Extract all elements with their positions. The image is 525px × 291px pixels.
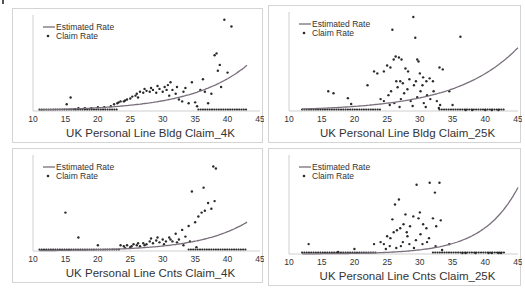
claim-rate-point [233,248,235,250]
claim-rate-point [349,108,351,110]
claim-rate-point [387,94,389,96]
claim-rate-point [351,108,353,110]
claim-rate-point [207,102,209,104]
claim-rate-point [231,248,233,250]
claim-rate-point [497,109,499,111]
legend-dot-swatch [47,35,50,38]
claim-rate-point [178,238,180,240]
claim-rate-point [489,108,491,110]
legend: Estimated RateClaim Rate [299,162,370,181]
claim-rate-point [220,108,222,110]
claim-rate-point [195,246,197,248]
claim-rate-point [188,248,190,250]
claim-rate-point [374,108,376,110]
claim-rate-point [443,108,445,110]
claim-rate-point [220,86,222,88]
claim-rate-point [158,241,160,243]
claim-rate-point [240,248,242,250]
claim-rate-point [400,58,402,60]
claim-rate-point [439,251,441,253]
claim-rate-point [142,92,144,94]
claim-rate-point [373,243,375,245]
claim-rate-point [396,86,398,88]
claim-rate-point [200,211,202,213]
claim-rate-point [187,225,189,227]
claim-rate-point [156,85,158,87]
claim-rate-point [208,248,210,250]
claim-rate-point [226,248,228,250]
claim-rate-point [209,108,211,110]
x-tick-label: 20 [93,254,103,264]
claim-rate-point [203,248,205,250]
x-tick-label: 40 [481,114,491,124]
claim-rate-point [95,108,97,110]
claim-rate-point [143,244,145,246]
x-tick-label: 35 [448,114,458,124]
claim-rate-point [230,25,232,27]
x-tick-label: 10 [28,254,38,264]
claim-rate-point [196,105,198,107]
claim-rate-point [367,108,369,110]
chart-canvas: 1015202530354045UK Personal Line Bldg Cl… [269,6,522,144]
claim-rate-point [497,252,499,254]
claim-rate-point [335,108,337,110]
claim-rate-point [213,54,215,56]
claim-rate-point [77,236,79,238]
claim-rate-point [452,108,454,110]
claim-rate-point [461,252,463,254]
claim-rate-point [432,251,434,253]
claim-rate-point [176,241,178,243]
x-tick-label: 20 [350,257,360,267]
claim-rate-point [406,231,408,233]
claim-rate-point [155,239,157,241]
claim-rate-point [468,251,470,253]
claim-rate-point [215,167,217,169]
claim-rate-point [436,251,438,253]
claim-rate-point [459,108,461,110]
claim-rate-point [445,108,447,110]
claim-rate-point [412,16,414,18]
claim-rate-point [155,92,157,94]
claim-rate-point [93,108,95,110]
claim-rate-point [64,211,66,213]
legend-label-claim-rate: Claim Rate [56,31,98,41]
x-tick-label: 40 [481,257,491,267]
chart-panel-cnts-25k: 1015202530354045UK Personal Line Cnts Cl… [268,148,521,286]
x-tick-label: 45 [255,254,264,264]
claim-rate-point [342,108,344,110]
claim-rate-point [240,108,242,110]
claim-rate-point [419,211,421,213]
claim-rate-point [482,251,484,253]
claim-rate-point [389,237,391,239]
claim-rate-point [201,248,203,250]
claim-rate-point [450,251,452,253]
claim-rate-point [174,233,176,235]
claim-rate-point [446,251,448,253]
claim-rate-point [222,108,224,110]
claim-rate-point [113,108,115,110]
claim-rate-point [423,102,425,104]
claim-rate-point [413,84,415,86]
claim-rate-point [491,109,493,111]
claim-rate-point [451,104,453,106]
chart-title: UK Personal Line Bldg Claim_25K [320,127,495,139]
claim-rate-point [383,70,385,72]
claim-rate-point [150,237,152,239]
claim-rate-point [353,248,355,250]
claim-rate-point [409,225,411,227]
claim-rate-point [187,102,189,104]
claim-rate-point [438,107,440,109]
claim-rate-point [480,251,482,253]
claim-rate-point [215,52,217,54]
claim-rate-point [392,231,394,233]
claim-rate-point [243,108,245,110]
claim-rate-point [69,96,71,98]
claim-rate-point [457,251,459,253]
claim-rate-point [366,84,368,86]
claim-rate-point [440,219,442,221]
claim-rate-point [219,64,221,66]
chart-title: UK Personal Line Cnts Claim_25K [320,270,496,282]
claim-rate-point [425,227,427,229]
claim-rate-point [347,97,349,99]
claim-rate-point [471,109,473,111]
